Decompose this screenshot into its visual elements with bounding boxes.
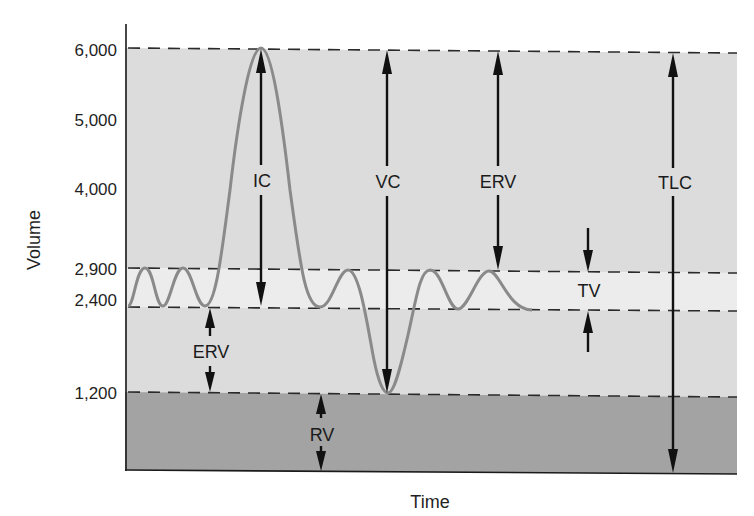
vc-label: VC <box>375 172 400 192</box>
tlc-label: TLC <box>658 173 692 193</box>
lung-volume-diagram: Volume 6,000 5,000 4,000 2,900 2,400 1,2… <box>0 0 754 516</box>
volume-bands <box>125 48 737 474</box>
y-tick-1200: 1,200 <box>74 384 117 403</box>
ic-label: IC <box>253 171 271 191</box>
y-tick-2900: 2,900 <box>74 260 117 279</box>
y-tick-labels: 6,000 5,000 4,000 2,900 2,400 1,200 <box>74 41 117 403</box>
y-tick-4000: 4,000 <box>74 180 117 199</box>
band-inspiratory-reserve <box>125 48 737 273</box>
tv-label: TV <box>577 281 600 301</box>
erv-upper-label: ERV <box>480 172 517 192</box>
x-axis-title: Time <box>410 492 449 512</box>
band-residual <box>125 392 737 474</box>
y-axis-title: Volume <box>24 210 44 270</box>
rv-label: RV <box>310 425 335 445</box>
y-tick-5000: 5,000 <box>74 111 117 130</box>
y-tick-6000: 6,000 <box>74 41 117 60</box>
erv-lower-label: ERV <box>193 342 230 362</box>
y-tick-2400: 2,400 <box>74 291 117 310</box>
